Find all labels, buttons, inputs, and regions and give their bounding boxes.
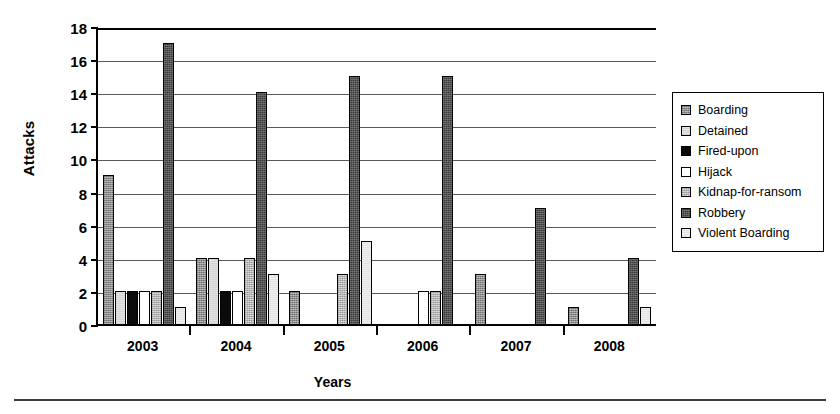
bar-violent-boarding-2005: [361, 241, 372, 324]
y-tick-label: 8: [79, 185, 98, 202]
bar-group-2003: [98, 28, 191, 324]
legend-item-label: Hijack: [698, 166, 732, 179]
bar-boarding-2004: [196, 258, 207, 324]
x-tick-label-2005: 2005: [283, 338, 376, 358]
plot-area: 181614121086420: [96, 28, 656, 326]
bar-robbery-2003: [163, 43, 174, 324]
bar-detained-2003: [115, 291, 126, 324]
bar-violent-boarding-2003: [175, 307, 186, 324]
x-tick-mark: [563, 326, 565, 335]
bottom-divider: [14, 399, 826, 401]
bar-robbery-2006: [442, 76, 453, 324]
bar-hijack-2004: [232, 291, 243, 324]
legend-item-kidnap-for-ransom[interactable]: Kidnap-for-ransom: [681, 182, 817, 203]
legend-swatch-fired-upon-icon: [681, 146, 691, 156]
legend-swatch-detained-icon: [681, 126, 691, 136]
x-tick-label-2004: 2004: [189, 338, 282, 358]
bar-fired-upon-2003: [127, 291, 138, 324]
legend-item-label: Detained: [698, 125, 748, 138]
bar-kidnap-for-ransom-2003: [151, 291, 162, 324]
bar-violent-boarding-2004: [268, 274, 279, 324]
y-tick-label: 2: [79, 284, 98, 301]
bar-boarding-2005: [289, 291, 300, 324]
bar-robbery-2005: [349, 76, 360, 324]
x-tick-label-2008: 2008: [563, 338, 656, 358]
bar-detained-2004: [208, 258, 219, 324]
bar-kidnap-for-ransom-2006: [430, 291, 441, 324]
legend-item-label: Violent Boarding: [698, 227, 790, 240]
bar-boarding-2007: [475, 274, 486, 324]
x-tick-label-2006: 2006: [376, 338, 469, 358]
legend-swatch-robbery-icon: [681, 208, 691, 218]
legend-item-robbery[interactable]: Robbery: [681, 203, 817, 224]
legend-item-label: Fired-upon: [698, 145, 758, 158]
y-tick-label: 10: [70, 152, 98, 169]
y-tick-label: 18: [70, 20, 98, 37]
legend-item-boarding[interactable]: Boarding: [681, 100, 817, 121]
legend-item-fired-upon[interactable]: Fired-upon: [681, 141, 817, 162]
y-tick-label: 14: [70, 86, 98, 103]
legend-swatch-boarding-icon: [681, 105, 691, 115]
legend: BoardingDetainedFired-uponHijackKidnap-f…: [672, 92, 824, 252]
x-axis-ticks: [96, 326, 656, 336]
bar-group-2004: [191, 28, 284, 324]
bar-fired-upon-2004: [220, 291, 231, 324]
legend-item-label: Robbery: [698, 207, 745, 220]
x-tick-mark: [376, 326, 378, 335]
bar-robbery-2007: [535, 208, 546, 324]
bar-chart-figure: Attacks 181614121086420 2003200420052006…: [0, 0, 840, 414]
legend-swatch-kidnap-for-ransom-icon: [681, 187, 691, 197]
bar-group-2007: [470, 28, 563, 324]
y-tick-label: 4: [79, 251, 98, 268]
bar-kidnap-for-ransom-2005: [337, 274, 348, 324]
y-axis-title: Attacks: [20, 89, 37, 209]
legend-item-hijack[interactable]: Hijack: [681, 162, 817, 183]
x-axis-tick-labels: 200320042005200620072008: [96, 338, 656, 358]
y-tick-label: 12: [70, 119, 98, 136]
x-tick-label-2007: 2007: [469, 338, 562, 358]
legend-item-violent-boarding[interactable]: Violent Boarding: [681, 223, 817, 244]
bar-robbery-2008: [628, 258, 639, 324]
bar-boarding-2003: [103, 175, 114, 324]
y-tick-label: 16: [70, 53, 98, 70]
x-tick-mark: [189, 326, 191, 335]
legend-item-label: Kidnap-for-ransom: [698, 186, 802, 199]
bar-hijack-2003: [139, 291, 150, 324]
bar-violent-boarding-2008: [640, 307, 651, 324]
bar-boarding-2008: [568, 307, 579, 324]
legend-swatch-violent-boarding-icon: [681, 228, 691, 238]
bar-kidnap-for-ransom-2004: [244, 258, 255, 324]
legend-swatch-hijack-icon: [681, 167, 691, 177]
legend-item-label: Boarding: [698, 104, 748, 117]
y-tick-label: 6: [79, 218, 98, 235]
bar-group-2008: [563, 28, 656, 324]
x-axis-title: Years: [0, 374, 665, 390]
bar-group-2005: [284, 28, 377, 324]
x-tick-mark: [283, 326, 285, 335]
bar-robbery-2004: [256, 92, 267, 324]
bar-hijack-2006: [418, 291, 429, 324]
bar-group-2006: [377, 28, 470, 324]
x-tick-label-2003: 2003: [96, 338, 189, 358]
legend-item-detained[interactable]: Detained: [681, 121, 817, 142]
x-tick-mark: [469, 326, 471, 335]
bar-groups: [98, 28, 656, 324]
